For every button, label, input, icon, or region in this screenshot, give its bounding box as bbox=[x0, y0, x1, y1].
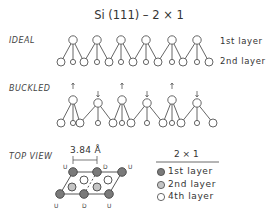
site-label-u: U bbox=[107, 202, 111, 209]
site-label-u: U bbox=[63, 163, 67, 170]
structure-diagram bbox=[0, 0, 278, 212]
lattice-dimension: 3.84 Å bbox=[70, 145, 101, 155]
ideal-structure bbox=[57, 36, 213, 66]
legend-item-4th-layer: 4th layer bbox=[168, 191, 214, 201]
legend-title: 2 × 1 bbox=[174, 149, 199, 159]
top-view-label: TOP VIEW bbox=[9, 152, 52, 161]
legend-item-2nd-layer: 2nd layer bbox=[168, 179, 216, 189]
site-label-d: D bbox=[103, 163, 108, 170]
site-label-u: U bbox=[128, 163, 132, 170]
buckled-label: BUCKLED bbox=[9, 84, 50, 93]
site-label-u: U bbox=[54, 202, 58, 209]
site-label-d: D bbox=[82, 202, 87, 209]
buckled-structure bbox=[57, 83, 217, 127]
legend-item-1st-layer: 1st layer bbox=[168, 166, 213, 176]
